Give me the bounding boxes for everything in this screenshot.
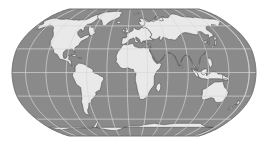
world-map-figure: Robinson (pseudocylindrical) world proje… — [0, 0, 271, 147]
map-body — [12, 9, 256, 136]
world-map-svg — [0, 0, 271, 147]
landmass-hispaniola — [78, 58, 82, 59]
landmass-ireland — [122, 30, 124, 32]
